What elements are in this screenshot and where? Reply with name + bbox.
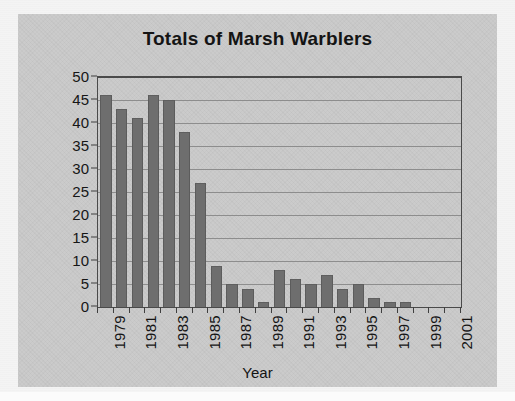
x-axis-tick-label: 1987 bbox=[237, 315, 254, 350]
bar-1984 bbox=[179, 132, 190, 307]
x-axis-tick-label: 1991 bbox=[300, 315, 317, 350]
y-axis-tick-label: 5 bbox=[81, 275, 89, 292]
y-axis-tick-label: 15 bbox=[72, 229, 89, 246]
chart-figure: Totals of Marsh Warblers Pairs + singing… bbox=[18, 14, 497, 387]
bar-1983 bbox=[163, 100, 174, 307]
x-axis-tick-mark bbox=[334, 307, 335, 313]
bar-slot bbox=[98, 77, 114, 307]
screenshot-root: Totals of Marsh Warblers Pairs + singing… bbox=[0, 0, 515, 401]
bar-1981 bbox=[132, 118, 143, 307]
x-axis-tick-label: 1993 bbox=[332, 315, 349, 350]
y-axis-tick-label: 35 bbox=[72, 137, 89, 154]
x-axis-tick-mark bbox=[192, 307, 193, 313]
x-axis-tick-mark bbox=[160, 307, 161, 313]
bar-slot bbox=[429, 77, 445, 307]
chart-title: Totals of Marsh Warblers bbox=[18, 28, 497, 50]
x-axis-tick-label: 1999 bbox=[427, 315, 444, 350]
bar-1995 bbox=[353, 284, 364, 307]
x-axis-tick-label: 1981 bbox=[142, 315, 159, 350]
bar-1979 bbox=[100, 95, 111, 307]
bar-slot bbox=[398, 77, 414, 307]
x-axis-tick-mark bbox=[460, 307, 461, 313]
bar-1994 bbox=[337, 289, 348, 307]
x-axis-tick-mark bbox=[207, 307, 208, 313]
x-axis-tick-label: 1983 bbox=[174, 315, 191, 350]
x-axis-tick-label: 1997 bbox=[395, 315, 412, 350]
x-axis-tick-label: 1979 bbox=[111, 315, 128, 350]
bar-slot bbox=[414, 77, 430, 307]
bar-1982 bbox=[148, 95, 159, 307]
bar-slot bbox=[130, 77, 146, 307]
y-axis-tick-label: 30 bbox=[72, 160, 89, 177]
x-axis-tick-mark bbox=[397, 307, 398, 313]
x-axis-tick-label: 1989 bbox=[269, 315, 286, 350]
bar-slot bbox=[366, 77, 382, 307]
bar-1991 bbox=[290, 279, 301, 307]
plot-area bbox=[97, 76, 462, 308]
x-axis-tick-marks bbox=[97, 307, 460, 315]
bar-1992 bbox=[305, 284, 316, 307]
x-axis-tick-mark bbox=[271, 307, 272, 313]
x-axis-tick-mark bbox=[113, 307, 114, 313]
y-axis-tick-label: 10 bbox=[72, 252, 89, 269]
bar-slot bbox=[382, 77, 398, 307]
x-axis-tick-mark bbox=[223, 307, 224, 313]
y-axis-tick-label: 20 bbox=[72, 206, 89, 223]
bar-slot bbox=[287, 77, 303, 307]
bar-slot bbox=[224, 77, 240, 307]
bar-slot bbox=[351, 77, 367, 307]
y-axis-tick-label: 50 bbox=[72, 68, 89, 85]
x-axis-tick-label: 2001 bbox=[458, 315, 475, 350]
bar-1986 bbox=[211, 266, 222, 307]
bar-slot bbox=[193, 77, 209, 307]
x-axis-tick-mark bbox=[286, 307, 287, 313]
bar-slot bbox=[145, 77, 161, 307]
x-axis-tick-mark bbox=[413, 307, 414, 313]
x-axis-title: Year bbox=[18, 364, 497, 381]
x-axis-tick-mark bbox=[318, 307, 319, 313]
bar-series bbox=[98, 77, 461, 307]
bar-1985 bbox=[195, 183, 206, 307]
x-axis-tick-mark bbox=[350, 307, 351, 313]
y-axis-tick-label: 0 bbox=[81, 298, 89, 315]
y-axis-tick-label: 25 bbox=[72, 183, 89, 200]
scan-bottom-band bbox=[0, 392, 515, 401]
x-axis-tick-mark bbox=[97, 307, 98, 313]
x-axis-tick-mark bbox=[176, 307, 177, 313]
bar-slot bbox=[240, 77, 256, 307]
x-axis-tick-label: 1995 bbox=[363, 315, 380, 350]
x-axis-tick-label: 1985 bbox=[206, 315, 223, 350]
x-axis-tick-mark bbox=[129, 307, 130, 313]
x-axis-tick-mark bbox=[239, 307, 240, 313]
y-axis-tick-label: 40 bbox=[72, 114, 89, 131]
bar-slot bbox=[161, 77, 177, 307]
y-axis-tick-labels: 05101520253035404550 bbox=[58, 76, 97, 306]
bar-slot bbox=[256, 77, 272, 307]
x-axis-tick-mark bbox=[444, 307, 445, 313]
bar-slot bbox=[445, 77, 461, 307]
x-axis-tick-mark bbox=[381, 307, 382, 313]
bar-slot bbox=[335, 77, 351, 307]
bar-slot bbox=[319, 77, 335, 307]
bar-1987 bbox=[226, 284, 237, 307]
bar-slot bbox=[272, 77, 288, 307]
bar-1993 bbox=[321, 275, 332, 307]
x-axis-tick-mark bbox=[144, 307, 145, 313]
bar-slot bbox=[177, 77, 193, 307]
x-axis-tick-mark bbox=[365, 307, 366, 313]
bar-1988 bbox=[242, 289, 253, 307]
bar-slot bbox=[114, 77, 130, 307]
bar-1996 bbox=[368, 298, 379, 307]
bar-slot bbox=[208, 77, 224, 307]
bar-1990 bbox=[274, 270, 285, 307]
y-axis-tick-label: 45 bbox=[72, 91, 89, 108]
bar-1980 bbox=[116, 109, 127, 307]
bar-slot bbox=[303, 77, 319, 307]
x-axis-tick-mark bbox=[428, 307, 429, 313]
x-axis-tick-mark bbox=[255, 307, 256, 313]
x-axis-tick-mark bbox=[302, 307, 303, 313]
